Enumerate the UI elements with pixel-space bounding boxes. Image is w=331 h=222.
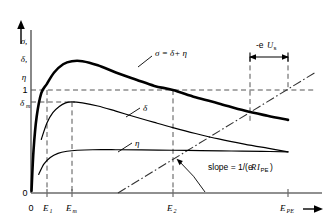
y-axis-label-sigma: σ, — [21, 36, 28, 46]
slope-text: slope = 1/(e — [208, 162, 253, 172]
sigma-curve-label: σ = δ+ η — [155, 48, 188, 58]
slope-subscript: PE — [261, 167, 269, 173]
x-tick-Em-symbol: E — [65, 203, 72, 213]
x-tick-E2-symbol: E — [166, 203, 173, 213]
bracket-prefix: -e — [256, 40, 264, 50]
x-tick-Em: E m — [65, 203, 78, 214]
delta-curve-label: δ — [143, 103, 148, 113]
y-axis-label-eta: η — [22, 72, 27, 82]
sigma-leader-line — [138, 56, 152, 67]
y-tick-unity: 1 — [22, 85, 27, 95]
retarding-voltage-bracket — [249, 53, 289, 62]
delta-curve — [41, 102, 288, 152]
x-tick-E2-subscript: 2 — [174, 208, 177, 214]
x-tick-Em-subscript: m — [73, 208, 78, 214]
x-tick-E2: E 2 — [166, 203, 177, 214]
y-axis-label-delta: δ, — [21, 54, 27, 64]
yield-curve-chart: σ, δ, η 1 δ m 0 0 E 1 E m E 2 E PE σ = δ… — [0, 0, 331, 222]
y-tick-delta-max-subscript: m — [26, 103, 31, 109]
x-tick-E1: E 1 — [42, 203, 53, 214]
x-tick-E1-symbol: E — [42, 203, 49, 213]
x-axis-arrow-icon — [303, 205, 323, 212]
slope-R-symbol: R — [250, 162, 257, 172]
eta-leader-line — [118, 143, 132, 152]
slope-tail: ) — [270, 162, 273, 172]
retarding-bracket-label: -e U s — [256, 40, 277, 51]
figure-container: σ, δ, η 1 δ m 0 0 E 1 E m E 2 E PE σ = δ… — [0, 0, 331, 222]
y-tick-zero: 0 — [22, 188, 27, 198]
x-tick-EPE: E PE — [279, 203, 294, 214]
y-tick-delta-max: δ m — [20, 98, 31, 109]
slope-leader — [177, 159, 206, 192]
x-tick-EPE-symbol: E — [279, 203, 286, 213]
x-tick-E1-subscript: 1 — [50, 208, 53, 214]
delta-leader-line — [126, 108, 140, 117]
x-tick-EPE-subscript: PE — [286, 208, 295, 214]
y-tick-delta-max-symbol: δ — [20, 98, 25, 108]
x-tick-origin: 0 — [28, 203, 33, 213]
slope-annotation: slope = 1/(e R I PE ) — [208, 162, 273, 173]
bracket-subscript: s — [274, 45, 277, 51]
eta-curve-label: η — [135, 138, 140, 148]
